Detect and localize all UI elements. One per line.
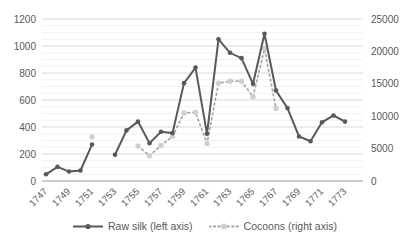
data-point-raw-silk: [251, 82, 256, 87]
y-axis-left-tick-label: 1200: [14, 14, 37, 25]
data-point-raw-silk: [113, 152, 118, 157]
data-point-cocoons: [147, 153, 152, 158]
data-point-raw-silk: [228, 50, 233, 55]
y-axis-right-tick-label: 10000: [371, 111, 399, 122]
legend-label-cocoons: Cocoons (right axis): [244, 220, 337, 232]
data-point-raw-silk: [136, 119, 141, 124]
data-point-raw-silk: [239, 56, 244, 61]
data-point-raw-silk: [285, 106, 290, 111]
cocoons-legend-marker: [209, 222, 239, 231]
legend-item-raw-silk: Raw silk (left axis): [73, 220, 193, 232]
data-point-raw-silk: [343, 119, 348, 124]
y-axis-left-tick-label: 1000: [14, 41, 37, 52]
data-point-raw-silk: [262, 32, 267, 37]
data-point-raw-silk: [90, 142, 95, 147]
y-axis-left-tick-label: 600: [19, 95, 36, 106]
y-axis-right-tick-label: 20000: [371, 46, 399, 57]
data-point-raw-silk: [78, 168, 83, 173]
data-point-cocoons: [89, 134, 94, 139]
y-axis-right: 0500010000150002000025000: [371, 14, 399, 187]
data-point-raw-silk: [159, 129, 164, 134]
data-point-raw-silk: [331, 113, 336, 118]
data-point-raw-silk: [193, 65, 198, 70]
y-axis-right-tick-label: 15000: [371, 78, 399, 89]
data-point-raw-silk: [297, 134, 302, 139]
data-point-raw-silk: [124, 128, 129, 133]
x-axis-tick-label: 1763: [211, 186, 234, 209]
data-point-raw-silk: [170, 131, 175, 136]
series-cocoons: [89, 46, 278, 158]
x-axis-tick-label: 1761: [188, 186, 211, 209]
data-point-raw-silk: [274, 88, 279, 93]
data-point-cocoons: [239, 79, 244, 84]
y-axis-left-tick-label: 200: [19, 149, 36, 160]
legend-label-raw-silk: Raw silk (left axis): [108, 220, 193, 232]
legend-item-cocoons: Cocoons (right axis): [209, 220, 337, 232]
data-point-raw-silk: [182, 81, 187, 86]
data-point-cocoons: [216, 80, 221, 85]
data-point-raw-silk: [147, 141, 152, 146]
series-raw-silk: [44, 32, 348, 177]
chart-legend: Raw silk (left axis) Cocoons (right axis…: [0, 215, 410, 237]
x-axis-tick-label: 1759: [165, 186, 188, 209]
x-axis: 1747174917511753175517571759176117631765…: [27, 186, 349, 209]
x-axis-tick-label: 1765: [234, 186, 257, 209]
data-point-raw-silk: [308, 139, 313, 144]
y-axis-right-tick-label: 25000: [371, 14, 399, 25]
x-axis-tick-label: 1757: [142, 186, 165, 209]
data-point-raw-silk: [205, 131, 210, 136]
data-point-cocoons: [250, 94, 255, 99]
chart: 0200400600800100012000500010000150002000…: [0, 0, 410, 241]
y-axis-right-tick-label: 5000: [371, 143, 394, 154]
y-axis-left-tick-label: 400: [19, 122, 36, 133]
x-axis-tick-label: 1747: [27, 186, 50, 209]
data-point-raw-silk: [320, 120, 325, 125]
x-axis-tick-label: 1751: [73, 186, 96, 209]
data-point-cocoons: [273, 106, 278, 111]
raw-silk-legend-marker: [73, 222, 103, 231]
x-axis-tick-label: 1767: [257, 186, 280, 209]
data-point-cocoons: [227, 79, 232, 84]
x-axis-tick-label: 1749: [50, 186, 73, 209]
data-point-cocoons: [158, 143, 163, 148]
y-axis-right-tick-label: 0: [371, 176, 377, 187]
x-axis-tick-label: 1753: [96, 186, 119, 209]
data-point-cocoons: [181, 110, 186, 115]
x-axis-tick-label: 1773: [326, 186, 349, 209]
y-axis-left: 020040060080010001200: [14, 14, 37, 187]
data-point-raw-silk: [55, 165, 60, 170]
plot-area: 0200400600800100012000500010000150002000…: [0, 0, 410, 212]
x-axis-tick-label: 1769: [280, 186, 303, 209]
data-point-cocoons: [204, 141, 209, 146]
y-axis-left-tick-label: 0: [30, 176, 36, 187]
x-axis-tick-label: 1755: [119, 186, 142, 209]
data-point-cocoons: [193, 110, 198, 115]
series-line-cocoons: [138, 49, 276, 156]
data-point-raw-silk: [67, 169, 72, 174]
data-point-raw-silk: [216, 37, 221, 42]
x-axis-tick-label: 1771: [303, 186, 326, 209]
data-point-cocoons: [135, 143, 140, 148]
series-line-raw-silk: [46, 34, 345, 175]
data-point-raw-silk: [44, 172, 49, 177]
y-axis-left-tick-label: 800: [19, 68, 36, 79]
